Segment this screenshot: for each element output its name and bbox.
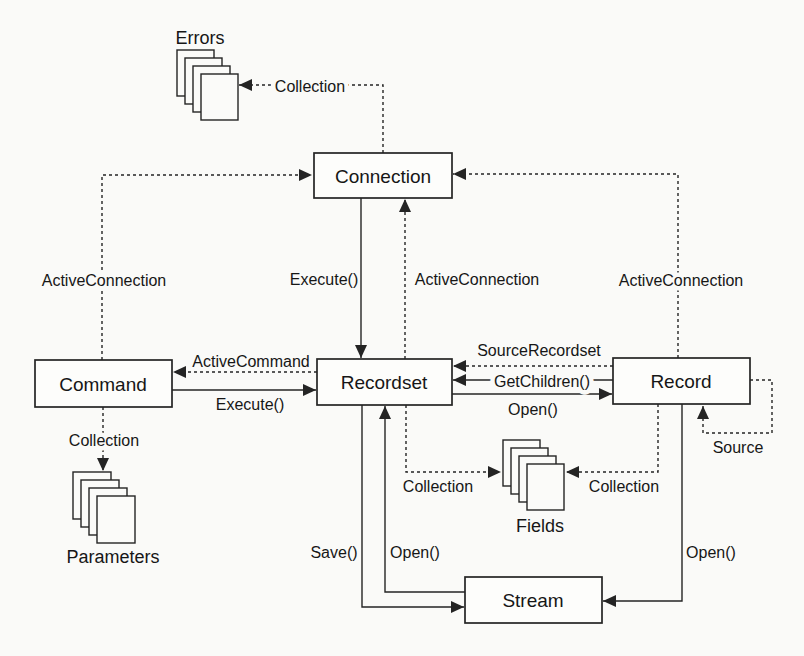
errors-collection-label: Collection <box>275 78 345 95</box>
getchildren-label: GetChildren() <box>494 373 590 390</box>
parameters-card <box>97 496 135 543</box>
fields-stack <box>503 440 564 510</box>
command-execute-label: Execute() <box>216 396 284 413</box>
edge-command-activeconnection <box>102 175 312 360</box>
fields-stack-label: Fields <box>516 516 564 536</box>
edge-record-open-stream <box>603 404 682 601</box>
sourcerecordset-label: SourceRecordset <box>477 342 601 359</box>
fields-card <box>527 464 564 510</box>
errors-card <box>201 74 238 120</box>
parameters-stack <box>73 472 135 543</box>
edge-recordset-fields-collection <box>406 405 501 472</box>
diagram-canvas: Connection Command Recordset Record Stre… <box>0 0 804 656</box>
edge-stream-open-recordset <box>385 406 465 592</box>
ado-object-model-diagram: Connection Command Recordset Record Stre… <box>0 0 804 656</box>
errors-stack <box>177 50 238 120</box>
connection-node-label: Connection <box>335 166 431 187</box>
recordset-activeconnection-label: ActiveConnection <box>415 271 540 288</box>
connection-execute-label: Execute() <box>290 271 358 288</box>
command-activeconnection-label: ActiveConnection <box>42 272 167 289</box>
record-source-label: Source <box>713 439 764 456</box>
edge-connection-errors-collection <box>239 85 383 153</box>
parameters-stack-label: Parameters <box>66 547 159 567</box>
edge-recordset-save-stream <box>362 405 464 607</box>
recordset-node-label: Recordset <box>341 372 428 393</box>
command-node-label: Command <box>59 374 147 395</box>
command-collection-label: Collection <box>69 432 139 449</box>
edge-record-fields-collection <box>566 404 658 472</box>
edge-record-activeconnection <box>453 174 678 358</box>
recordset-fields-collection-label: Collection <box>403 478 473 495</box>
stream-node-label: Stream <box>502 590 563 611</box>
record-activeconnection-label: ActiveConnection <box>619 272 744 289</box>
errors-stack-label: Errors <box>176 28 225 48</box>
record-node-label: Record <box>650 371 711 392</box>
record-open-stream-label: Open() <box>686 544 736 561</box>
activecommand-label: ActiveCommand <box>192 353 309 370</box>
recordset-open-record-label: Open() <box>508 401 558 418</box>
stream-open-recordset-label: Open() <box>390 544 440 561</box>
record-fields-collection-label: Collection <box>589 478 659 495</box>
recordset-save-label: Save() <box>310 544 357 561</box>
